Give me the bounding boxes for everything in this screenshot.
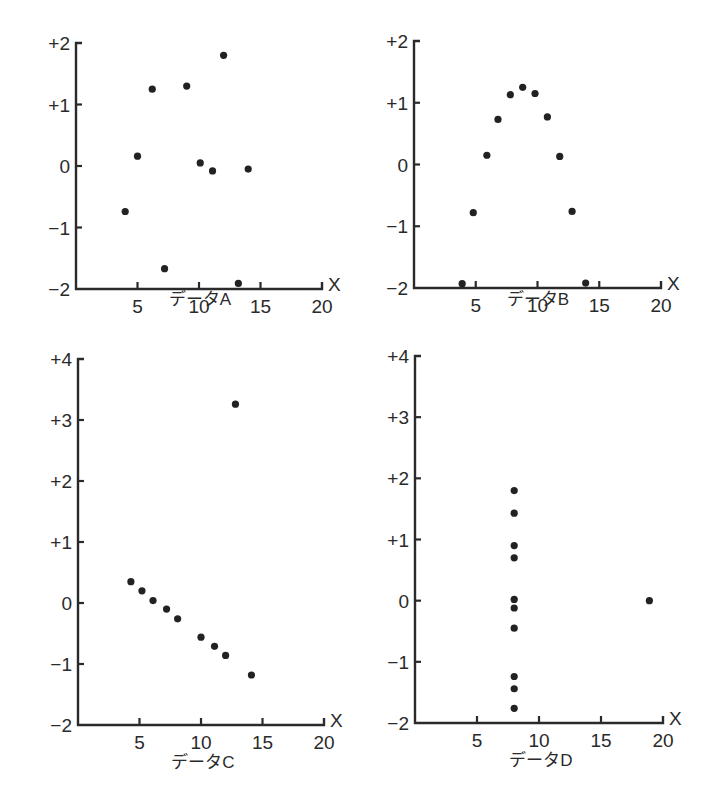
data-point — [197, 634, 204, 641]
data-point — [161, 265, 168, 272]
data-point — [511, 604, 518, 611]
data-point — [544, 113, 551, 120]
y-tick-label: +3 — [387, 407, 409, 428]
data-point — [149, 597, 156, 604]
data-point — [220, 52, 227, 59]
data-point — [459, 280, 466, 287]
x-tick-label: 10 — [528, 730, 549, 751]
panel-caption: データA — [169, 289, 232, 309]
y-tick-label: +1 — [387, 530, 409, 551]
data-point — [494, 116, 501, 123]
y-tick-label: +2 — [386, 31, 408, 52]
data-point — [248, 671, 255, 678]
x-axis-label: X — [330, 710, 343, 731]
data-point — [470, 209, 477, 216]
panel-caption: データC — [171, 752, 234, 772]
y-tick-label: −2 — [50, 715, 72, 736]
axes-lines — [415, 356, 663, 723]
x-tick-label: 15 — [590, 730, 611, 751]
data-point — [511, 510, 518, 517]
y-tick-label: −1 — [48, 218, 70, 239]
x-tick-label: 15 — [252, 732, 273, 753]
panel-caption: データD — [509, 750, 572, 770]
data-point — [507, 91, 514, 98]
y-tick-label: 0 — [59, 156, 70, 177]
x-tick-label: 20 — [650, 295, 671, 316]
x-axis-label: X — [669, 708, 682, 729]
data-point — [138, 587, 145, 594]
x-tick-label: 20 — [652, 730, 673, 751]
data-point — [582, 279, 589, 286]
data-point — [197, 159, 204, 166]
x-axis-label: X — [328, 274, 341, 295]
panel-data-b: −2−10+1+25101520XデータB — [386, 31, 680, 316]
data-point — [149, 86, 156, 93]
data-point — [556, 153, 563, 160]
data-point — [232, 401, 239, 408]
panel-caption: データB — [507, 289, 569, 309]
y-tick-label: +2 — [48, 33, 70, 54]
y-tick-label: 0 — [398, 591, 409, 612]
x-tick-label: 15 — [250, 296, 271, 317]
data-point — [511, 625, 518, 632]
data-point — [568, 208, 575, 215]
data-point — [511, 673, 518, 680]
x-tick-label: 10 — [190, 732, 211, 753]
y-tick-label: +1 — [386, 93, 408, 114]
y-tick-label: −1 — [50, 654, 72, 675]
x-tick-label: 5 — [472, 730, 483, 751]
y-tick-label: +1 — [50, 532, 72, 553]
x-tick-label: 20 — [313, 732, 334, 753]
axes-lines — [414, 41, 661, 288]
x-axis-label: X — [667, 273, 680, 294]
y-tick-label: +1 — [48, 95, 70, 116]
data-point — [222, 652, 229, 659]
y-tick-label: 0 — [61, 593, 72, 614]
y-tick-label: +4 — [387, 346, 409, 367]
panel-data-a: −2−10+1+25101520XデータA — [48, 33, 341, 317]
x-tick-label: 20 — [311, 296, 332, 317]
y-tick-label: −2 — [48, 279, 70, 300]
y-tick-label: −2 — [387, 713, 409, 734]
data-point — [122, 208, 129, 215]
data-point — [511, 705, 518, 712]
panel-data-d: −2−10+1+2+3+45101520XデータD — [387, 346, 682, 770]
data-point — [646, 597, 653, 604]
data-point — [235, 280, 242, 287]
data-point — [245, 165, 252, 172]
y-tick-label: +2 — [387, 468, 409, 489]
data-point — [531, 90, 538, 97]
data-point — [163, 606, 170, 613]
y-tick-label: −1 — [386, 216, 408, 237]
y-tick-label: −2 — [386, 278, 408, 299]
y-tick-label: 0 — [397, 155, 408, 176]
data-point — [511, 542, 518, 549]
data-point — [483, 152, 490, 159]
y-tick-label: +4 — [50, 349, 72, 370]
data-point — [134, 153, 141, 160]
data-point — [511, 685, 518, 692]
x-tick-label: 15 — [589, 295, 610, 316]
y-tick-label: −1 — [387, 652, 409, 673]
x-tick-label: 5 — [134, 732, 145, 753]
data-point — [511, 596, 518, 603]
axes-lines — [78, 359, 324, 725]
y-tick-label: +3 — [50, 410, 72, 431]
data-point — [511, 487, 518, 494]
data-point — [511, 554, 518, 561]
scatter-quartet-figure: −2−10+1+25101520XデータA −2−10+1+25101520Xデ… — [0, 0, 714, 798]
x-tick-label: 5 — [132, 296, 143, 317]
panel-data-c: −2−10+1+2+3+45101520XデータC — [50, 349, 343, 772]
data-point — [127, 578, 134, 585]
x-tick-label: 5 — [470, 295, 481, 316]
data-point — [209, 167, 216, 174]
data-point — [174, 615, 181, 622]
data-point — [183, 82, 190, 89]
y-tick-label: +2 — [50, 471, 72, 492]
data-point — [211, 643, 218, 650]
data-point — [519, 84, 526, 91]
